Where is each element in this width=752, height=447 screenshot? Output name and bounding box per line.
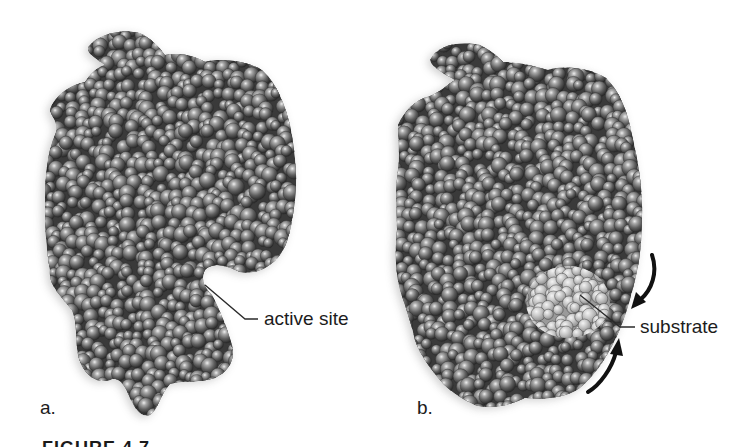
panel-label-b: b. bbox=[417, 398, 433, 417]
active-site-label: active site bbox=[264, 309, 348, 328]
enzyme-substrate-figure: a. active site b. substrate FIGURE 4.7 bbox=[0, 0, 752, 447]
figure-canvas bbox=[0, 0, 752, 447]
enzyme-molecule-b bbox=[378, 25, 651, 419]
substrate-label: substrate bbox=[640, 317, 718, 336]
figure-caption: FIGURE 4.7 bbox=[42, 438, 150, 447]
enzyme-molecule-a bbox=[28, 15, 302, 427]
panel-label-a: a. bbox=[40, 398, 56, 417]
